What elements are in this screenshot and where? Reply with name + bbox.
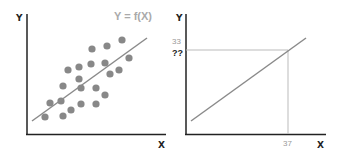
scatter-dot bbox=[118, 36, 125, 43]
right-line-chart: Y X 33 ?? 37 bbox=[172, 13, 326, 150]
scatter-points bbox=[41, 36, 132, 120]
left-y-axis-label: Y bbox=[15, 13, 23, 23]
scatter-dot bbox=[75, 63, 82, 70]
scatter-dot bbox=[87, 60, 94, 67]
right-x-axis-label: X bbox=[317, 140, 324, 150]
scatter-dot bbox=[88, 45, 95, 52]
formula-label: Y = f(X) bbox=[114, 10, 152, 22]
scatter-dot bbox=[77, 100, 84, 107]
y-tick-33: 33 bbox=[172, 37, 181, 46]
scatter-dot bbox=[125, 54, 132, 61]
diagram-canvas: Y X Y = f(X) Y X 33 ?? 37 bbox=[0, 0, 343, 158]
scatter-dot bbox=[101, 59, 108, 66]
x-tick-37: 37 bbox=[283, 139, 292, 148]
right-y-axis-label: Y bbox=[175, 13, 183, 23]
scatter-dot bbox=[92, 84, 99, 91]
left-scatter-chart: Y X Y = f(X) bbox=[15, 10, 166, 150]
scatter-dot bbox=[75, 75, 82, 82]
scatter-dot bbox=[115, 66, 122, 73]
scatter-dot bbox=[92, 100, 99, 107]
y-unknown-label: ?? bbox=[172, 48, 183, 58]
scatter-dot bbox=[101, 91, 108, 98]
scatter-dot bbox=[59, 82, 66, 89]
scatter-dot bbox=[106, 70, 113, 77]
scatter-dot bbox=[103, 42, 110, 49]
scatter-dot bbox=[59, 112, 66, 119]
scatter-dot bbox=[64, 66, 71, 73]
scatter-dot bbox=[41, 113, 48, 120]
scatter-dot bbox=[67, 106, 74, 113]
left-x-axis-label: X bbox=[158, 140, 165, 150]
